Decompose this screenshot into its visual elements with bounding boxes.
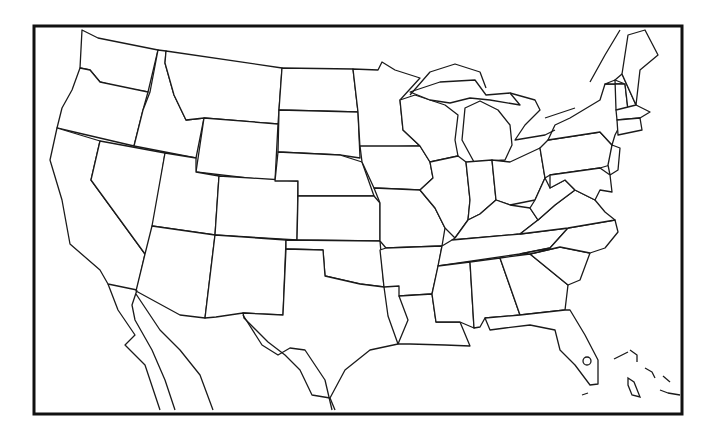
state-kansas bbox=[297, 196, 380, 241]
state-colorado bbox=[215, 176, 298, 240]
state-wyoming bbox=[196, 118, 278, 181]
state-south-dakota bbox=[278, 110, 360, 158]
state-north-dakota bbox=[279, 68, 358, 112]
lake-okeechobee bbox=[583, 357, 591, 365]
us-outline-map bbox=[0, 0, 721, 437]
state-mississippi bbox=[432, 262, 474, 328]
state-new-mexico bbox=[205, 235, 286, 318]
